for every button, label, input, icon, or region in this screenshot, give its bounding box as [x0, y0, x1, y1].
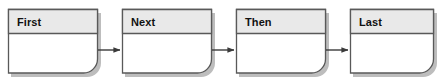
- node-next[interactable]: Next: [123, 10, 216, 78]
- diagram-canvas: First Next Then L: [0, 0, 442, 81]
- node-then[interactable]: Then: [237, 10, 330, 78]
- flow-diagram: First Next Then L: [0, 0, 442, 81]
- node-last-label: Last: [359, 16, 382, 28]
- node-next-label: Next: [131, 16, 155, 28]
- node-then-label: Then: [245, 16, 272, 28]
- node-last[interactable]: Last: [351, 10, 438, 78]
- node-first[interactable]: First: [9, 10, 102, 78]
- node-first-label: First: [17, 16, 42, 28]
